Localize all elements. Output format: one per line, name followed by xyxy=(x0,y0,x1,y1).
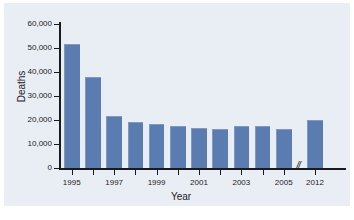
y-tick-label: 0 xyxy=(6,164,52,172)
bar-2001 xyxy=(191,128,207,168)
x-tick-1995 xyxy=(72,170,73,175)
chart-panel: 010,00020,00030,00040,00050,00060,000 19… xyxy=(4,3,350,206)
x-axis-line xyxy=(59,168,346,170)
x-tick-2000 xyxy=(178,170,179,175)
x-tick-2002 xyxy=(220,170,221,175)
x-tick-2003 xyxy=(241,170,242,175)
plot-area xyxy=(60,24,345,168)
x-tick-label-1999: 1999 xyxy=(137,178,177,187)
bar-2002 xyxy=(212,129,228,168)
x-tick-label-1995: 1995 xyxy=(52,178,92,187)
axis-break-marker: // xyxy=(296,161,300,171)
x-tick-label-2003: 2003 xyxy=(221,178,261,187)
y-tick-label: 30,000 xyxy=(6,92,52,100)
x-tick-label-2001: 2001 xyxy=(179,178,219,187)
bar-1997 xyxy=(106,116,122,168)
y-tick-label: 60,000 xyxy=(6,20,52,28)
bar-2000 xyxy=(170,126,186,168)
x-tick-1996 xyxy=(93,170,94,175)
bar-2005 xyxy=(276,129,292,168)
y-axis-title: Deaths xyxy=(16,57,27,117)
y-tick-label: 20,000 xyxy=(6,116,52,124)
bar-1996 xyxy=(85,77,101,168)
x-tick-label-1997: 1997 xyxy=(94,178,134,187)
bar-1995 xyxy=(64,44,80,168)
chart-figure: 010,00020,00030,00040,00050,00060,000 19… xyxy=(0,0,354,220)
x-tick-1998 xyxy=(135,170,136,175)
x-tick-1999 xyxy=(157,170,158,175)
y-axis-line xyxy=(59,22,61,170)
x-tick-label-2012: 2012 xyxy=(295,178,335,187)
x-axis-title: Year xyxy=(4,191,354,202)
x-tick-2004 xyxy=(263,170,264,175)
y-tick-label: 50,000 xyxy=(6,44,52,52)
y-tick-label: 40,000 xyxy=(6,68,52,76)
x-tick-2005 xyxy=(284,170,285,175)
y-tick-label: 10,000 xyxy=(6,140,52,148)
bar-2004 xyxy=(255,126,271,168)
bar-1999 xyxy=(149,124,165,168)
bar-1998 xyxy=(128,122,144,168)
x-tick-1997 xyxy=(114,170,115,175)
bar-2012 xyxy=(307,120,323,168)
x-tick-2012 xyxy=(315,170,316,175)
bar-2003 xyxy=(234,126,250,168)
x-tick-2001 xyxy=(199,170,200,175)
